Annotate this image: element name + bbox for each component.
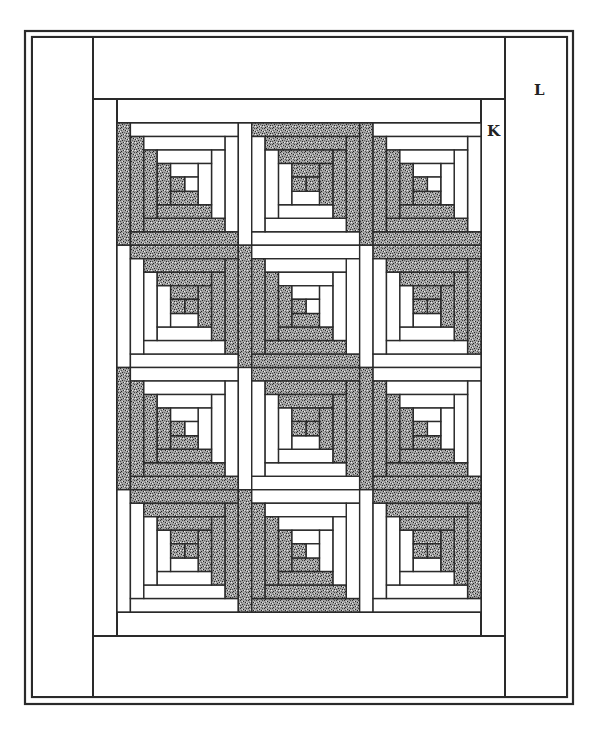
log-top <box>130 368 238 382</box>
log-top <box>279 272 333 286</box>
log-left <box>117 245 130 367</box>
log-left <box>360 245 373 367</box>
log-left <box>117 490 130 612</box>
log-bottom <box>400 327 454 341</box>
log-left <box>360 490 373 612</box>
log-bottom <box>265 340 346 354</box>
log-cabin-blocks <box>117 123 481 612</box>
log-bottom <box>386 463 467 477</box>
log-bottom <box>171 191 198 205</box>
block-center <box>413 299 427 313</box>
log-right <box>441 530 454 571</box>
log-bottom <box>144 218 225 232</box>
log-top <box>386 503 467 517</box>
log-left <box>130 137 143 232</box>
log-top <box>171 164 198 178</box>
log-left <box>400 164 413 205</box>
log-top <box>130 245 238 259</box>
log-right <box>468 381 481 476</box>
block-r4-c1 <box>117 490 238 612</box>
log-top <box>144 503 225 517</box>
log-right <box>346 137 359 232</box>
log-right <box>185 544 198 558</box>
log-top <box>373 123 481 137</box>
log-right <box>468 503 481 598</box>
log-bottom <box>252 354 360 368</box>
log-top <box>130 490 238 504</box>
block-r2-c3 <box>360 245 481 367</box>
log-left <box>360 123 373 245</box>
log-left <box>157 286 170 327</box>
log-right <box>306 544 319 558</box>
block-r3-c2 <box>238 368 359 490</box>
log-bottom <box>157 571 211 585</box>
log-top <box>265 503 346 517</box>
log-right <box>225 259 238 354</box>
log-top <box>386 259 467 273</box>
log-left <box>144 150 157 218</box>
log-left <box>373 137 386 232</box>
log-bottom <box>386 218 467 232</box>
log-top <box>144 381 225 395</box>
log-left <box>386 395 399 463</box>
block-center <box>292 299 306 313</box>
log-right <box>427 177 440 191</box>
log-right <box>346 381 359 476</box>
log-top <box>373 368 481 382</box>
log-left <box>157 408 170 449</box>
log-left <box>144 395 157 463</box>
log-top <box>373 490 481 504</box>
log-top <box>292 164 319 178</box>
block-r4-c3 <box>360 490 481 612</box>
log-top <box>279 517 333 531</box>
log-left <box>144 517 157 585</box>
log-right <box>225 137 238 232</box>
log-bottom <box>292 191 319 205</box>
log-left <box>400 530 413 571</box>
log-left <box>279 286 292 327</box>
log-bottom <box>130 354 238 368</box>
log-left <box>279 530 292 571</box>
log-left <box>400 286 413 327</box>
log-top <box>279 150 333 164</box>
log-bottom <box>413 558 440 572</box>
block-center <box>171 177 185 191</box>
log-bottom <box>265 218 346 232</box>
log-bottom <box>171 313 198 327</box>
log-top <box>400 150 454 164</box>
log-left <box>279 408 292 449</box>
border-k-bottom-strip <box>117 612 481 636</box>
log-top <box>144 259 225 273</box>
log-left <box>360 368 373 490</box>
log-top <box>171 286 198 300</box>
log-bottom <box>413 436 440 450</box>
border-k-label: K <box>487 124 500 139</box>
log-top <box>252 490 360 504</box>
border-l-right-column <box>505 37 567 697</box>
log-bottom <box>279 205 333 219</box>
log-right <box>306 422 319 436</box>
log-bottom <box>292 558 319 572</box>
log-top <box>157 517 211 531</box>
log-right <box>454 272 467 340</box>
log-right <box>468 137 481 232</box>
log-top <box>413 408 440 422</box>
log-right <box>212 150 225 218</box>
log-right <box>212 517 225 585</box>
log-top <box>157 395 211 409</box>
log-bottom <box>279 327 333 341</box>
log-bottom <box>279 571 333 585</box>
log-right <box>333 272 346 340</box>
log-left <box>373 259 386 354</box>
log-bottom <box>386 340 467 354</box>
log-top <box>265 259 346 273</box>
log-top <box>373 245 481 259</box>
log-top <box>157 150 211 164</box>
log-bottom <box>413 191 440 205</box>
log-left <box>252 503 265 598</box>
log-right <box>185 299 198 313</box>
block-r1-c1 <box>117 123 238 245</box>
log-right <box>333 150 346 218</box>
block-center <box>171 544 185 558</box>
log-left <box>279 164 292 205</box>
